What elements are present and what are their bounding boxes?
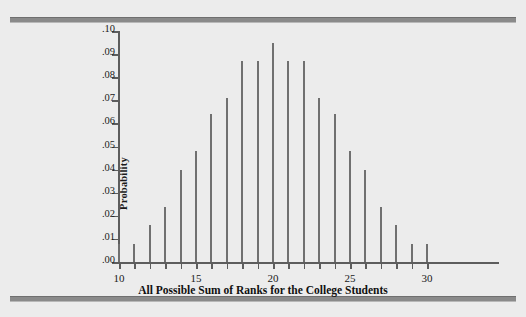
- bar: [164, 207, 166, 262]
- bottom-rule: [10, 296, 516, 302]
- bar: [180, 170, 182, 262]
- bar: [349, 151, 351, 262]
- x-tick: [227, 262, 229, 269]
- y-tick-label: .04: [102, 162, 115, 173]
- x-tick: [365, 262, 367, 269]
- x-tick: [335, 262, 337, 269]
- bar: [411, 244, 413, 262]
- y-tick-label: .03: [102, 185, 115, 196]
- y-tick-label: .02: [102, 208, 115, 219]
- x-tick: [150, 262, 152, 269]
- x-tick-label: 15: [191, 272, 202, 284]
- x-tick: [196, 262, 198, 269]
- x-tick-label: 30: [422, 272, 433, 284]
- y-tick-label: .07: [102, 92, 115, 103]
- bar: [334, 114, 336, 262]
- bar: [272, 43, 274, 262]
- x-tick-label: 20: [268, 272, 279, 284]
- bar: [318, 98, 320, 262]
- figure-page: Probability .00.01.02.03.04.05.06.07.08.…: [0, 0, 526, 317]
- x-tick: [288, 262, 290, 269]
- x-tick: [211, 262, 213, 269]
- x-tick: [304, 262, 306, 269]
- bar: [395, 225, 397, 262]
- y-tick-label: .09: [102, 46, 115, 57]
- x-tick: [350, 262, 352, 269]
- bar: [226, 98, 228, 262]
- x-tick: [181, 262, 183, 269]
- x-tick: [412, 262, 414, 269]
- y-tick-label: .01: [102, 231, 115, 242]
- x-tick: [273, 262, 275, 269]
- bar: [257, 61, 259, 262]
- x-tick: [165, 262, 167, 269]
- x-axis-line: [118, 262, 499, 264]
- x-tick: [381, 262, 383, 269]
- x-tick: [396, 262, 398, 269]
- x-tick: [427, 262, 429, 269]
- y-tick-label: .08: [102, 69, 115, 80]
- bar: [364, 170, 366, 262]
- plot-area: .00.01.02.03.04.05.06.07.08.09.10 101520…: [119, 31, 427, 262]
- bar: [149, 225, 151, 262]
- y-tick-label: .10: [102, 23, 115, 34]
- x-tick: [242, 262, 244, 269]
- y-tick-label: .06: [102, 115, 115, 126]
- x-tick: [319, 262, 321, 269]
- bar: [287, 61, 289, 262]
- bar: [133, 244, 135, 262]
- bar: [195, 151, 197, 262]
- y-tick-label: .00: [102, 254, 115, 265]
- x-tick-label: 25: [345, 272, 356, 284]
- x-tick: [258, 262, 260, 269]
- bar: [118, 244, 120, 262]
- y-tick-label: .05: [102, 139, 115, 150]
- bar: [380, 207, 382, 262]
- x-tick: [119, 262, 121, 269]
- bar: [210, 114, 212, 262]
- bar: [241, 61, 243, 262]
- bar: [426, 244, 428, 262]
- x-tick-label: 10: [114, 272, 125, 284]
- bar: [303, 61, 305, 262]
- x-tick: [134, 262, 136, 269]
- x-axis-title: All Possible Sum of Ranks for the Colleg…: [0, 284, 526, 296]
- probability-distribution-chart: Probability .00.01.02.03.04.05.06.07.08.…: [0, 22, 526, 294]
- y-axis-title-wrapper: Probability: [63, 82, 77, 262]
